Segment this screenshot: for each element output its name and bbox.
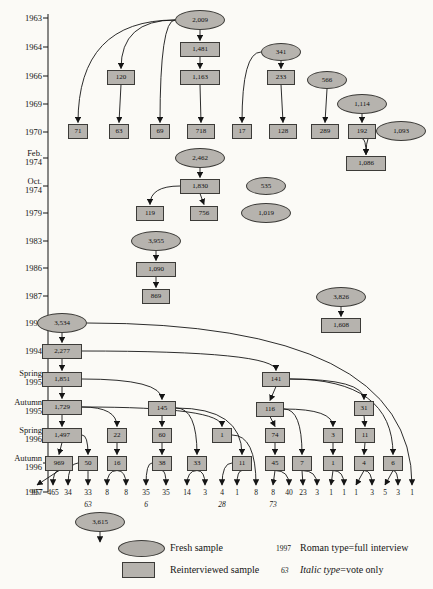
reinterviewed-sample-node-na96e: 33 <box>187 456 207 471</box>
fresh-sample-node-n92f: 3,534 <box>37 313 87 333</box>
flow-arrow <box>356 471 364 486</box>
flow-arrow <box>82 379 162 400</box>
flow-arrow <box>270 417 275 427</box>
year-label: 1969 <box>0 100 42 109</box>
reinterviewed-sample-node-n87p: 869 <box>142 289 170 304</box>
flow-arrow <box>275 471 289 486</box>
reinterviewed-sample-node-n70f: 128 <box>269 124 297 139</box>
flow-arrow <box>331 471 333 486</box>
flow-arrow <box>197 471 205 486</box>
flow-arrow <box>364 471 372 486</box>
reinterviewed-sample-node-n70d: 718 <box>187 124 215 139</box>
year-label: 1963 <box>0 14 42 23</box>
full-interview-count: 35 <box>142 488 150 497</box>
full-interview-count: 3 <box>370 488 374 497</box>
fresh-sample-label: Fresh sample <box>170 542 223 553</box>
full-interview-count: 1 <box>410 488 414 497</box>
fresh-sample-node-n83f: 3,955 <box>131 231 181 251</box>
flow-arrow <box>385 471 393 486</box>
flow-arrow <box>284 409 302 455</box>
reinterviewed-sample-node-n79b: 756 <box>190 206 218 221</box>
flow-arrow <box>270 387 276 401</box>
flow-arrow <box>150 186 180 205</box>
italic-type-label-italic-part: Italic type <box>300 564 340 575</box>
reinterviewed-sample-node-n70c: 69 <box>150 124 170 139</box>
fresh-sample-swatch <box>118 540 165 557</box>
fresh-sample-node-n74f: 2,462 <box>175 148 225 168</box>
reinterviewed-sample-node-n64p: 1,481 <box>180 42 220 57</box>
flow-arrow <box>393 471 398 486</box>
reinterviewed-sample-node-ns96e: 74 <box>265 428 285 443</box>
flow-arrow <box>364 416 365 427</box>
reinterviewed-sample-node-n86p: 1,090 <box>136 262 176 277</box>
vote-only-count: 6 <box>144 500 148 509</box>
reinterviewed-sample-node-na96b: 50 <box>78 456 98 471</box>
full-interview-count: 3 <box>315 488 319 497</box>
year-axis <box>43 14 48 492</box>
flow-arrow <box>82 407 117 427</box>
year-label: 1983 <box>0 237 42 246</box>
reinterviewed-sample-node-na96f: 11 <box>232 456 252 471</box>
reinterviewed-sample-node-n70h: 192 <box>348 124 376 139</box>
reinterviewed-sample-node-na95b: 145 <box>148 401 176 416</box>
flow-arrow <box>362 139 366 155</box>
reinterviewed-sample-swatch <box>122 562 155 578</box>
flow-arrow <box>117 471 126 486</box>
reinterviewed-sample-node-na96j: 4 <box>354 456 374 471</box>
roman-type-key: 1997 <box>276 544 291 553</box>
reinterviewed-sample-node-na96g: 45 <box>265 456 285 471</box>
panel-design-figure: 19631964196619691970Feb. 1974Oct. 197419… <box>0 0 433 589</box>
vote-only-count: 63 <box>84 500 92 509</box>
flow-arrow <box>302 471 317 486</box>
flow-arrow <box>237 471 242 486</box>
flow-arrow <box>53 471 59 486</box>
year-label: 1987 <box>0 292 42 301</box>
full-interview-count: 8 <box>254 488 258 497</box>
fresh-sample-node-n87f: 3,826 <box>316 287 366 307</box>
reinterviewed-sample-node-na96i: 1 <box>323 456 343 471</box>
flow-arrow <box>160 20 175 123</box>
flow-arrow <box>59 443 62 455</box>
flow-arrow <box>200 194 204 205</box>
flow-arrow <box>302 471 303 486</box>
flow-arrow <box>290 379 364 400</box>
full-interview-count: 4 <box>220 488 224 497</box>
flow-arrow <box>333 471 344 486</box>
reinterviewed-sample-node-ns95b: 141 <box>262 372 290 387</box>
year-label: 1966 <box>0 72 42 81</box>
flow-arrow <box>273 471 275 486</box>
reinterviewed-sample-node-ns96b: 22 <box>107 428 127 443</box>
year-label: 1994 <box>0 347 42 356</box>
reinterviewed-sample-node-n94: 2,277 <box>42 344 82 359</box>
full-interview-count: 33 <box>84 488 92 497</box>
year-label: Feb. 1974 <box>0 149 42 167</box>
reinterviewed-sample-node-ns95: 1,851 <box>42 372 82 387</box>
flow-arrow <box>162 471 166 486</box>
reinterviewed-sample-node-n70a: 71 <box>68 124 88 139</box>
full-interview-count: 8 <box>271 488 275 497</box>
full-interview-count: 14 <box>183 488 191 497</box>
flow-arrow <box>176 408 242 455</box>
flow-arrow <box>281 85 283 123</box>
year-label: 1964 <box>0 43 42 52</box>
flow-arrow <box>200 85 201 123</box>
flow-arrow <box>82 351 276 371</box>
vote-only-count: 73 <box>269 500 277 509</box>
year-label: Autumn 1996 <box>0 454 42 472</box>
full-interview-count: 957 <box>31 488 42 497</box>
full-interview-count: 23 <box>299 488 307 497</box>
full-interview-count: 35 <box>162 488 170 497</box>
reinterviewed-sample-node-na95d: 31 <box>354 401 374 416</box>
reinterviewed-sample-node-ns96: 1,497 <box>42 428 82 443</box>
flow-arrow <box>325 89 327 123</box>
italic-type-key: 63 <box>281 566 289 575</box>
fresh-sample-node-n70i: 1,093 <box>376 121 426 141</box>
reinterviewed-sample-label: Reinterviewed sample <box>170 564 259 575</box>
reinterviewed-sample-node-n70b: 63 <box>109 124 129 139</box>
year-label: Spring 1995 <box>0 369 42 387</box>
reinterviewed-sample-node-no74p: 1,830 <box>180 179 220 194</box>
fresh-sample-node-n66f: 566 <box>307 71 347 89</box>
italic-type-label: Italic type=vote only <box>300 564 383 575</box>
full-interview-count: 1 <box>235 488 239 497</box>
reinterviewed-sample-node-ns96f: 3 <box>323 428 343 443</box>
